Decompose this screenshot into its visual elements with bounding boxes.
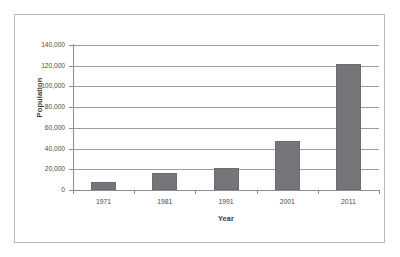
x-axis-ticks [73, 190, 379, 195]
y-axis-tick [69, 190, 73, 191]
y-axis-tick-label: 140,000 [19, 41, 65, 48]
bar-1971 [91, 182, 116, 190]
y-axis-tick [69, 169, 73, 170]
x-axis-tick [73, 190, 74, 194]
x-axis-tick-label: 2011 [318, 198, 378, 205]
bar-1981 [152, 173, 177, 190]
plot-area [73, 45, 379, 190]
y-axis-tick [69, 128, 73, 129]
y-axis-tick-label: 120,000 [19, 62, 65, 69]
bar-2001 [275, 141, 300, 190]
bar-chart: Population 140,000120,000100,00080,00060… [15, 15, 386, 244]
x-axis-tick [318, 190, 319, 194]
y-axis-tick-label: 40,000 [19, 145, 65, 152]
x-axis-tick [195, 190, 196, 194]
x-axis-tick [379, 190, 380, 194]
bar-2011 [336, 64, 361, 190]
x-axis-tick-label: 2001 [257, 198, 317, 205]
gridline [73, 107, 379, 108]
x-axis-tick [134, 190, 135, 194]
bar-1991 [214, 168, 239, 190]
x-axis-tick-label: 1971 [74, 198, 134, 205]
gridline [73, 86, 379, 87]
x-axis-tick [257, 190, 258, 194]
gridline [73, 149, 379, 150]
y-axis-tick-label: 20,000 [19, 165, 65, 172]
gridline [73, 45, 379, 46]
y-axis-tick-label: 80,000 [19, 103, 65, 110]
gridline [73, 66, 379, 67]
y-axis-tick [69, 45, 73, 46]
y-axis-tick-labels: 140,000120,000100,00080,00060,00040,0002… [15, 15, 65, 244]
y-axis-tick [69, 66, 73, 67]
y-axis-tick [69, 86, 73, 87]
x-axis-tick-label: 1981 [135, 198, 195, 205]
chart-frame: Population 140,000120,000100,00080,00060… [14, 14, 385, 243]
y-axis-tick-label: 100,000 [19, 82, 65, 89]
x-axis-title: Year [73, 214, 379, 223]
x-axis-tick-label: 1991 [196, 198, 256, 205]
y-axis-tick-label: 60,000 [19, 124, 65, 131]
gridline [73, 128, 379, 129]
y-axis-tick [69, 107, 73, 108]
y-axis-tick-label: 0 [19, 186, 65, 193]
y-axis-tick [69, 149, 73, 150]
